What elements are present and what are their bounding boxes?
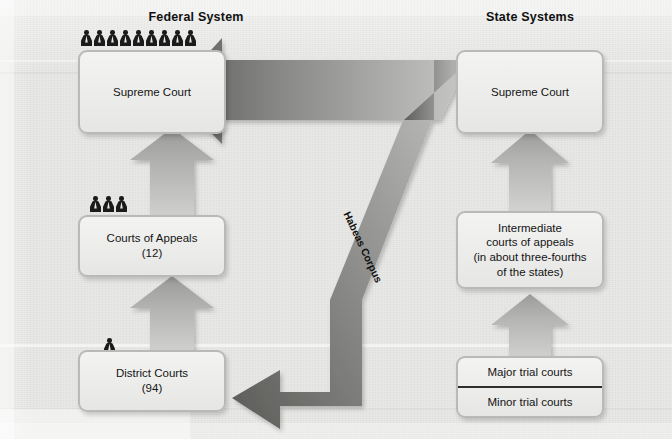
page-edge-bottom [0,423,672,439]
box-state-intermediate-courts[interactable]: Intermediate courts of appeals (in about… [456,211,604,289]
box-state-supreme-court-label: Supreme Court [485,85,575,100]
person-icon [133,30,144,47]
page-edge-bottom-left [0,409,190,439]
supreme-court-justices-icons [81,30,196,47]
person-head-icon [97,30,102,35]
diagram-canvas: Federal System State Systems Supreme Cou… [0,0,672,439]
person-head-icon [188,30,193,35]
person-icon [90,196,101,213]
person-icon [103,196,114,213]
person-head-icon [93,196,98,201]
box-federal-district-courts[interactable]: District Courts (94) [78,350,226,412]
person-head-icon [110,30,115,35]
person-icon [146,30,157,47]
box-federal-supreme-court-label: Supreme Court [107,85,197,100]
person-head-icon [175,30,180,35]
person-icon [185,30,196,47]
scan-band-3 [0,344,672,347]
box-federal-courts-of-appeals[interactable]: Courts of Appeals (12) [78,215,226,277]
person-icon [107,30,118,47]
arrow-trial-to-intermediate [491,294,569,360]
box-federal-courts-of-appeals-label: Courts of Appeals (12) [101,231,204,260]
person-icon [94,30,105,47]
person-head-icon [106,196,111,201]
person-icon [120,30,131,47]
box-state-trial-courts[interactable]: Major trial courts Minor trial courts [456,356,604,418]
person-head-icon [84,30,89,35]
arrow-intermediate-to-supreme [491,130,569,212]
person-icon [159,30,170,47]
box-state-major-trial-courts[interactable]: Major trial courts [458,358,602,388]
person-icon [116,196,127,213]
person-head-icon [136,30,141,35]
person-head-icon [162,30,167,35]
box-state-major-trial-courts-label: Major trial courts [482,365,579,380]
person-head-icon [123,30,128,35]
habeas-corpus-label: Habeas Corpus [342,209,385,284]
person-head-icon [107,338,112,343]
person-head-icon [119,196,124,201]
box-state-minor-trial-courts-label: Minor trial courts [482,395,579,410]
box-state-minor-trial-courts[interactable]: Minor trial courts [458,388,602,416]
box-federal-supreme-court[interactable]: Supreme Court [78,50,226,134]
person-icon [172,30,183,47]
person-head-icon [149,30,154,35]
box-state-supreme-court[interactable]: Supreme Court [456,50,604,134]
state-systems-heading: State Systems [440,10,620,24]
courts-of-appeals-judges-icons [90,196,127,213]
page-edge-left [0,0,14,439]
box-federal-district-courts-label: District Courts (94) [110,366,194,395]
federal-system-heading: Federal System [106,10,286,24]
box-state-intermediate-courts-label: Intermediate courts of appeals (in about… [467,221,592,280]
arrow-appeals-to-supreme [130,128,214,216]
arrow-district-to-appeals [130,276,214,350]
person-icon [81,30,92,47]
